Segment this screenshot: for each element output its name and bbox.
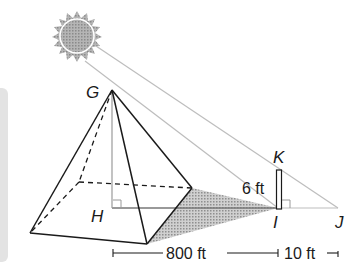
label-I: I bbox=[273, 213, 278, 232]
label-G: G bbox=[86, 83, 99, 102]
side-panel bbox=[0, 88, 8, 262]
pole-IK bbox=[277, 170, 282, 209]
label-K: K bbox=[273, 148, 285, 167]
right-angle-marker-I bbox=[282, 200, 290, 208]
pyramid-shadow-figure: G H I J K 6 ft 800 ft 10 ft bbox=[0, 0, 364, 280]
diagram-canvas: G H I J K 6 ft 800 ft 10 ft bbox=[0, 0, 364, 280]
sun-icon bbox=[52, 11, 102, 62]
label-800-ft: 800 ft bbox=[166, 245, 207, 262]
right-angle-marker-H bbox=[113, 200, 121, 208]
label-10-ft: 10 ft bbox=[284, 245, 316, 262]
label-J: J bbox=[334, 213, 344, 232]
pyramid-hidden-edges bbox=[30, 90, 192, 233]
sun-ray-upper bbox=[96, 46, 338, 208]
label-pole-height: 6 ft bbox=[242, 180, 265, 197]
label-H: H bbox=[91, 207, 104, 226]
